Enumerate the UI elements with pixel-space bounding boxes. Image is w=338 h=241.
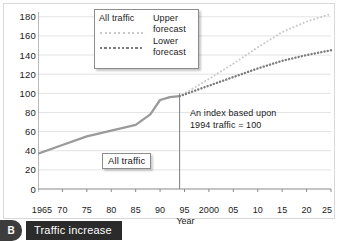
- legend-series-label: All traffic: [99, 13, 151, 23]
- y-axis-tick-label: 40: [25, 146, 36, 155]
- legend-entries: Upper forecast Lower forecast: [153, 13, 199, 57]
- x-axis-tick-label: 80: [106, 205, 116, 215]
- x-axis-tick-label: 1965: [32, 205, 52, 215]
- x-axis-tick-label: 75: [82, 205, 92, 215]
- y-axis-tick-label: 100: [20, 89, 36, 98]
- x-axis-tick-label: 70: [57, 205, 67, 215]
- y-axis-tick-label: 140: [20, 51, 36, 60]
- x-axis-tick-label: 10: [253, 205, 263, 215]
- chart-legend: All traffic Upper forecast Lower forecas…: [94, 9, 199, 69]
- caption-text: Traffic increase: [26, 221, 122, 240]
- x-axis-tick-label: 25: [322, 205, 332, 215]
- x-axis-tick-label: 90: [155, 205, 165, 215]
- index-annotation-line1: An index based upon: [190, 108, 330, 120]
- index-annotation: An index based upon 1994 traffic = 100: [190, 108, 330, 131]
- legend-entry-upper-forecast: Upper forecast: [153, 13, 199, 34]
- y-axis-tick-label: 120: [20, 70, 36, 79]
- y-axis-tick-label: 20: [25, 165, 36, 174]
- y-axis-tick-label: 60: [25, 127, 36, 136]
- x-axis-tick-label: 85: [131, 205, 141, 215]
- legend-swatch-upper-forecast: [100, 32, 143, 34]
- caption-badge-letter: B: [0, 220, 22, 241]
- y-axis-tick-label: 180: [20, 12, 36, 21]
- caption-bar: B Traffic increase: [0, 220, 338, 241]
- y-axis-tick-label: 160: [20, 31, 36, 40]
- y-axis-tick-label: 80: [25, 108, 36, 117]
- x-axis-tick-label: 15: [277, 205, 287, 215]
- chart-figure: 020406080100120140160180 196570758085909…: [0, 0, 338, 241]
- x-axis-tick-label: 20: [301, 205, 311, 215]
- legend-entry-lower-forecast: Lower forecast: [153, 36, 199, 57]
- all-traffic-callout: All traffic: [102, 153, 151, 169]
- x-axis-tick-label: 2000: [199, 205, 219, 215]
- legend-swatch-lower-forecast: [100, 47, 143, 49]
- y-axis-tick-label: 0: [31, 185, 36, 194]
- index-annotation-line2: 1994 traffic = 100: [190, 120, 330, 132]
- x-axis-tick-label: 05: [228, 205, 238, 215]
- y-axis-labels: 020406080100120140160180: [8, 10, 36, 203]
- x-axis-tick-label: 95: [179, 205, 189, 215]
- caption-badge: B: [0, 220, 22, 241]
- legend-series-block: All traffic: [99, 13, 151, 23]
